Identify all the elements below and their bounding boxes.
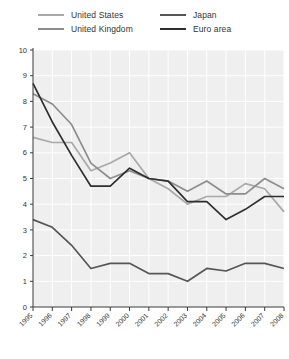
- legend-item-japan: Japan: [160, 8, 231, 22]
- x-tick-label-2003: 2003: [172, 312, 188, 328]
- y-tick-label-10: 10: [19, 46, 27, 55]
- legend-label-united-states: United States: [71, 10, 123, 20]
- line-chart: United States United Kingdom Japan Euro …: [0, 0, 289, 359]
- x-axis-labels: 1995199619971998199920002001200220032004…: [18, 312, 285, 328]
- y-tick-label-1: 1: [23, 277, 27, 286]
- y-tick-label-6: 6: [23, 148, 27, 157]
- legend-item-united-states: United States: [38, 8, 133, 22]
- x-tick-label-1997: 1997: [56, 312, 72, 328]
- legend-swatch-united-states: [38, 14, 64, 16]
- y-tick-label-9: 9: [23, 71, 27, 80]
- legend-swatch-japan: [160, 14, 186, 16]
- x-tick-label-2001: 2001: [134, 312, 150, 328]
- legend-swatch-united-kingdom: [38, 28, 64, 30]
- chart-legend: United States United Kingdom Japan Euro …: [0, 8, 289, 36]
- x-tick-label-2004: 2004: [192, 312, 208, 328]
- y-tick-label-0: 0: [23, 303, 27, 312]
- legend-swatch-euro-area: [160, 28, 186, 30]
- legend-item-euro-area: Euro area: [160, 22, 231, 36]
- x-axis-ticks: [33, 307, 284, 311]
- y-tick-label-4: 4: [23, 200, 27, 209]
- plot-area: 012345678910 199519961997199819992000200…: [0, 44, 289, 359]
- x-tick-label-1996: 1996: [37, 312, 53, 328]
- y-tick-label-8: 8: [23, 97, 27, 106]
- x-tick-label-1998: 1998: [76, 312, 92, 328]
- legend-label-euro-area: Euro area: [193, 24, 231, 34]
- x-tick-label-2000: 2000: [114, 312, 130, 328]
- y-tick-label-2: 2: [23, 251, 27, 260]
- legend-label-united-kingdom: United Kingdom: [71, 24, 133, 34]
- y-tick-label-3: 3: [23, 226, 27, 235]
- y-axis-labels: 012345678910: [19, 46, 27, 312]
- plot-svg: 012345678910 199519961997199819992000200…: [0, 44, 289, 359]
- x-tick-label-1999: 1999: [95, 312, 111, 328]
- legend-column-left: United States United Kingdom: [38, 8, 133, 36]
- y-tick-label-5: 5: [23, 174, 27, 183]
- x-tick-label-1995: 1995: [18, 312, 34, 328]
- y-tick-label-7: 7: [23, 123, 27, 132]
- x-tick-label-2002: 2002: [153, 312, 169, 328]
- x-tick-label-2006: 2006: [230, 312, 246, 328]
- x-tick-label-2007: 2007: [249, 312, 265, 328]
- legend-label-japan: Japan: [193, 10, 217, 20]
- legend-column-right: Japan Euro area: [160, 8, 231, 36]
- x-tick-label-2005: 2005: [211, 312, 227, 328]
- legend-item-united-kingdom: United Kingdom: [38, 22, 133, 36]
- x-tick-label-2008: 2008: [269, 312, 285, 328]
